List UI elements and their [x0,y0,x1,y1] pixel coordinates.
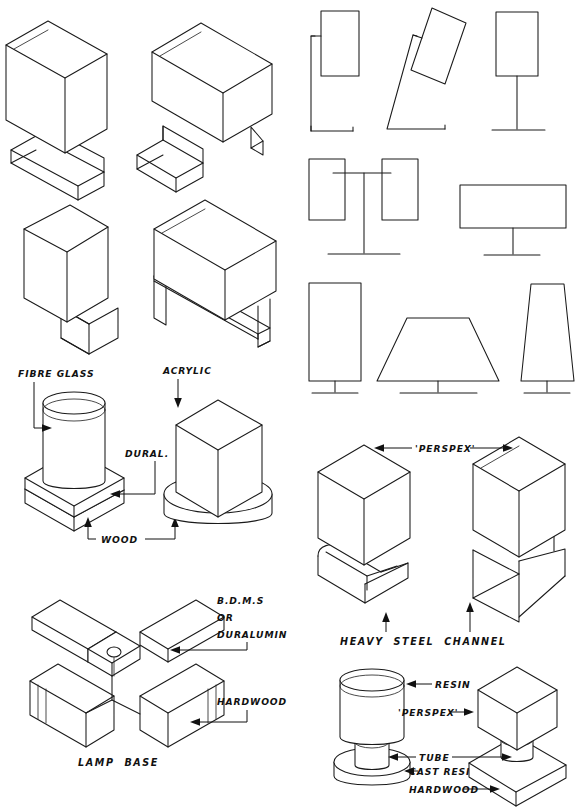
label-tube: TUBE [419,752,450,763]
label-fibre-glass: FIBRE GLASS [18,368,95,379]
label-duralumin: DURALUMIN [217,629,287,640]
label-bdms: B.D.M.S [217,595,264,606]
label-hardwood: HARDWOOD [217,696,287,707]
label-perspex-channel: 'PERSPEX' [415,443,476,454]
label-or: OR [217,612,234,623]
figure-elev-tapered-shade [521,284,574,393]
caption-heavy-steel-channel: HEAVY STEEL CHANNEL [340,636,507,647]
drawing-sheet: FIBRE GLASS DURAL. WOOD ACRYLIC [0,0,581,812]
caption-lamp-base: LAMP BASE [78,757,159,768]
label-dural: DURAL. [125,448,169,459]
label-perspex-cube: 'PERSPEX' [398,707,459,718]
label-wood: WOOD [101,534,138,545]
label-resin: RESIN [435,679,471,690]
figure-elev-tall-rect-shade [309,283,361,393]
label-acrylic: ACRYLIC [162,365,212,376]
